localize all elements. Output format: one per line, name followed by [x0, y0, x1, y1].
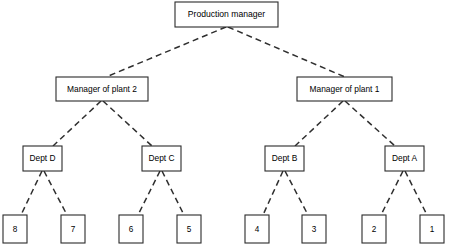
- connector-deptD-to-unit7: [44, 171, 67, 215]
- node-root[interactable]: Production manager: [175, 2, 278, 27]
- node-deptC[interactable]: Dept C: [142, 146, 181, 171]
- node-label-unit5: 5: [187, 225, 192, 234]
- connector-deptB-to-unit4: [263, 171, 283, 215]
- connector-deptC-to-unit5: [162, 171, 184, 215]
- node-label-mgr2: Manager of plant 2: [67, 84, 137, 94]
- connector-mgr1-to-deptB: [295, 101, 343, 146]
- node-label-unit4: 4: [255, 225, 260, 234]
- org-chart-diagram: Production managerManager of plant 2Mana…: [0, 0, 450, 251]
- org-chart-canvas: Production managerManager of plant 2Mana…: [0, 0, 450, 251]
- node-label-deptC: Dept C: [148, 153, 174, 163]
- node-label-unit1: 1: [430, 225, 435, 234]
- node-deptD[interactable]: Dept D: [23, 146, 62, 171]
- node-label-deptA: Dept A: [392, 153, 418, 163]
- connector-mgr2-to-deptC: [103, 101, 152, 146]
- node-deptA[interactable]: Dept A: [385, 146, 424, 171]
- node-unit5[interactable]: 5: [177, 215, 201, 243]
- connector-deptD-to-unit8: [21, 171, 42, 215]
- nodes-group: Production managerManager of plant 2Mana…: [3, 2, 444, 243]
- node-deptB[interactable]: Dept B: [265, 146, 304, 171]
- node-mgr1[interactable]: Manager of plant 1: [297, 77, 392, 101]
- node-label-unit6: 6: [129, 225, 134, 234]
- connector-root-to-mgr1: [228, 27, 345, 77]
- connector-deptB-to-unit3: [285, 171, 308, 215]
- node-label-unit7: 7: [71, 225, 76, 234]
- node-unit6[interactable]: 6: [119, 215, 143, 243]
- connector-mgr2-to-deptD: [53, 101, 101, 146]
- node-unit7[interactable]: 7: [61, 215, 85, 243]
- node-unit8[interactable]: 8: [3, 215, 27, 243]
- connector-lines-group: [21, 27, 427, 215]
- node-label-root: Production manager: [188, 9, 266, 19]
- node-label-deptD: Dept D: [29, 153, 55, 163]
- node-unit2[interactable]: 2: [362, 215, 386, 243]
- node-mgr2[interactable]: Manager of plant 2: [56, 77, 148, 101]
- node-unit4[interactable]: 4: [245, 215, 269, 243]
- node-unit1[interactable]: 1: [420, 215, 444, 243]
- connector-deptA-to-unit2: [381, 171, 403, 215]
- node-unit3[interactable]: 3: [302, 215, 326, 243]
- node-label-unit3: 3: [312, 225, 317, 234]
- connector-mgr1-to-deptA: [345, 101, 395, 146]
- connector-deptC-to-unit6: [138, 171, 160, 215]
- connector-deptA-to-unit1: [405, 171, 427, 215]
- node-label-mgr1: Manager of plant 1: [310, 84, 380, 94]
- connector-root-to-mgr2: [106, 27, 226, 77]
- node-label-deptB: Dept B: [272, 153, 298, 163]
- node-label-unit2: 2: [372, 225, 377, 234]
- node-label-unit8: 8: [13, 225, 18, 234]
